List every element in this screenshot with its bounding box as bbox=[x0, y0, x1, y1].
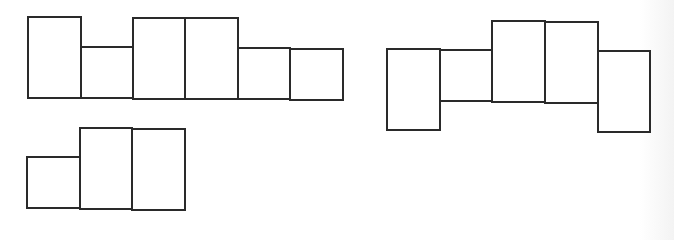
net-2-cell-4 bbox=[545, 22, 598, 103]
net-2 bbox=[387, 21, 650, 132]
net-3-cell-3 bbox=[132, 129, 185, 210]
net-2-cell-5 bbox=[598, 51, 650, 132]
net-1-cell-2 bbox=[81, 47, 133, 98]
nets-drawing bbox=[0, 0, 674, 223]
net-1-cell-6 bbox=[290, 49, 343, 100]
net-1-cell-1 bbox=[28, 17, 81, 98]
net-1 bbox=[28, 17, 343, 100]
net-1-cell-3 bbox=[133, 18, 185, 99]
net-2-cell-1 bbox=[387, 49, 440, 130]
diagram-canvas bbox=[0, 0, 674, 223]
net-3 bbox=[27, 128, 185, 210]
net-1-cell-5 bbox=[238, 48, 290, 99]
net-2-cell-3 bbox=[492, 21, 545, 102]
net-3-cell-1 bbox=[27, 157, 80, 208]
net-2-cell-2 bbox=[440, 50, 492, 101]
net-3-cell-2 bbox=[80, 128, 132, 209]
net-1-cell-4 bbox=[185, 18, 238, 99]
